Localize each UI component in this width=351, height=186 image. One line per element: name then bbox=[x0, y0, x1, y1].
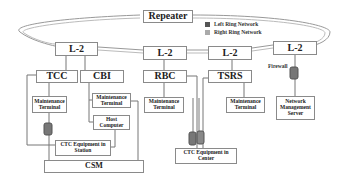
repeater-node: Repeater bbox=[143, 10, 193, 23]
maintenance-terminal-tcc: Maintenance Terminal bbox=[32, 96, 67, 113]
l2-switch-3: L-2 bbox=[208, 46, 252, 60]
tsrs-node: TSRS bbox=[208, 70, 252, 83]
left-ring-swatch bbox=[205, 22, 210, 27]
firewall-icon bbox=[288, 66, 300, 80]
l2-switch-1: L-2 bbox=[55, 42, 98, 56]
ctc-equipment-station: CTC Equipment in Station bbox=[55, 140, 111, 156]
csm-node: CSM bbox=[44, 160, 144, 173]
ctc-equipment-center: CTC Equipment in Center bbox=[175, 148, 237, 164]
maintenance-terminal-tsrs: Maintenance Terminal bbox=[226, 97, 265, 113]
right-ring-swatch bbox=[205, 30, 210, 35]
server-icon-center bbox=[188, 130, 206, 146]
server-icon-station bbox=[42, 122, 54, 136]
l2-switch-2: L-2 bbox=[143, 46, 187, 60]
maintenance-terminal-cbi: Maintenance Terminal bbox=[92, 93, 131, 108]
l2-switch-4: L-2 bbox=[273, 41, 317, 55]
rbc-node: RBC bbox=[143, 70, 187, 83]
maintenance-terminal-rbc: Maintenance Terminal bbox=[144, 97, 184, 113]
network-management-server: Network Management Server bbox=[276, 96, 315, 120]
tcc-node: TCC bbox=[36, 70, 78, 83]
host-computer: Host Computer bbox=[93, 115, 130, 130]
legend: Left Ring Network Right Ring Network bbox=[205, 20, 262, 36]
legend-left-ring: Left Ring Network bbox=[214, 21, 258, 27]
legend-right-ring: Right Ring Network bbox=[214, 29, 262, 35]
cbi-node: CBI bbox=[80, 70, 124, 83]
firewall-label: Firewall bbox=[268, 63, 287, 69]
